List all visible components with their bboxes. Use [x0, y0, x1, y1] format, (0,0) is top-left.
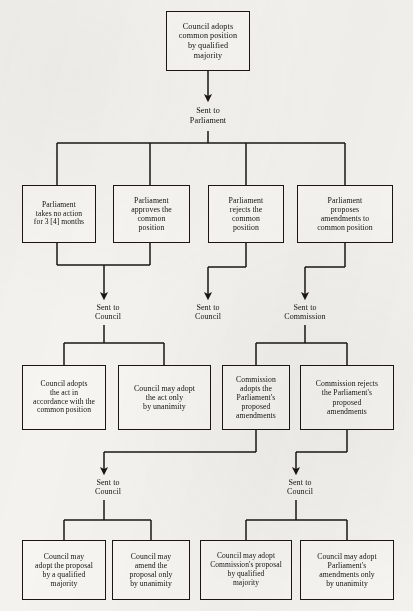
flowchart-node-n9: Council may adopt the proposal by a qual… — [22, 540, 106, 600]
flowchart-node-label: Council adopts the act in accordance wit… — [25, 380, 103, 416]
flowchart-edge-label-l5: Sent to Council — [260, 478, 340, 497]
flowchart-node-n8: Commission rejects the Parliament's prop… — [300, 365, 394, 430]
flowchart-node-label: Commission adopts the Parliament's propo… — [225, 375, 287, 420]
flowchart-node-n3: Parliament rejects the common position — [208, 185, 284, 243]
flowchart-node-n11: Council may adopt Commission's proposal … — [200, 540, 292, 600]
flowchart-node-label: Council may amend the proposal only by u… — [115, 552, 187, 588]
flowchart-node-label: Council may adopt the act only by unanim… — [121, 384, 208, 412]
flowchart-node-n2: Parliament approves the common position — [113, 185, 190, 243]
flowchart-node-n0: Council adopts common position by qualif… — [166, 11, 250, 71]
flowchart-edge-label-l1: Sent to Council — [68, 303, 148, 322]
flowchart-node-label: Parliament rejects the common position — [211, 196, 281, 233]
flowchart-node-label: Council may adopt Parliament's amendment… — [303, 552, 391, 588]
flowchart-node-n1: Parliament takes no action for 3 [4] mon… — [22, 185, 96, 243]
flowchart-node-n7: Commission adopts the Parliament's propo… — [222, 365, 290, 430]
flowchart-node-n4: Parliament proposes amendments to common… — [297, 185, 393, 243]
flowchart-edge-label-l3: Sent to Commission — [255, 303, 355, 322]
flowchart-edge-label-l4: Sent to Council — [68, 478, 148, 497]
flowchart-node-n5: Council adopts the act in accordance wit… — [22, 365, 106, 430]
flowchart-node-label: Council adopts common position by qualif… — [169, 22, 247, 61]
flowchart-node-n6: Council may adopt the act only by unanim… — [118, 365, 211, 430]
flowchart-node-label: Parliament takes no action for 3 [4] mon… — [25, 201, 93, 228]
flowchart-edge-label-l0: Sent to Parliament — [168, 106, 248, 125]
flowchart-node-label: Council may adopt the proposal by a qual… — [25, 552, 103, 588]
flowchart-node-label: Council may adopt Commission's proposal … — [203, 552, 289, 587]
flowchart-edge-label-l2: Sent to Council — [168, 303, 248, 322]
flowchart-node-n12: Council may adopt Parliament's amendment… — [300, 540, 394, 600]
flowchart-node-label: Parliament approves the common position — [116, 196, 187, 233]
flowchart-node-label: Commission rejects the Parliament's prop… — [303, 379, 391, 415]
flowchart-node-n10: Council may amend the proposal only by u… — [112, 540, 190, 600]
flowchart-node-label: Parliament proposes amendments to common… — [300, 196, 390, 233]
flowchart-canvas: Council adopts common position by qualif… — [0, 0, 413, 611]
